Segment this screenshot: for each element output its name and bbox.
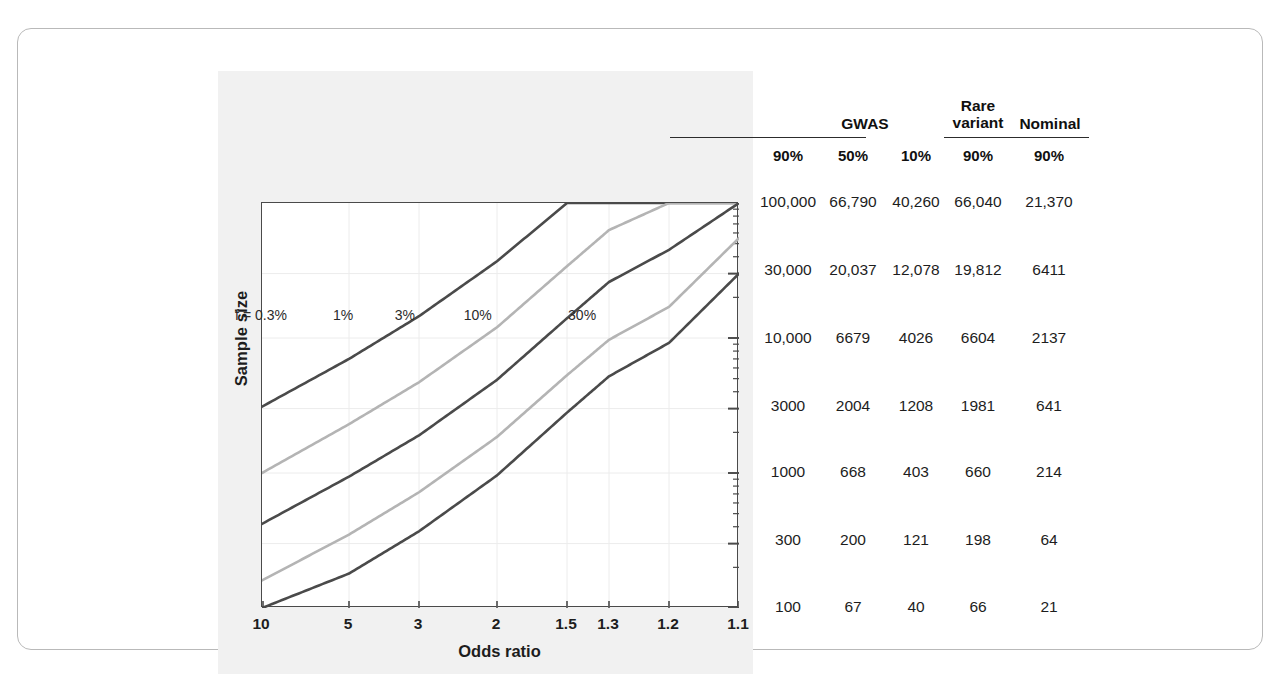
x-tick-label: 1.1 <box>727 615 749 633</box>
table-cell: 2004 <box>836 397 870 415</box>
x-axis-title: Odds ratio <box>261 642 738 661</box>
results-table: GWASRarevariantNominal90%50%10%90%90%100… <box>753 79 1103 639</box>
table-cell: 660 <box>965 463 991 481</box>
table-cell: 100,000 <box>760 193 816 211</box>
curve-label-1: 1% <box>333 307 353 323</box>
curve-label-3: 3% <box>395 307 415 323</box>
table-cell: 19,812 <box>954 261 1001 279</box>
x-tick-label: 3 <box>414 615 423 633</box>
table-cell: 66,790 <box>829 193 876 211</box>
x-tick-label: 5 <box>344 615 353 633</box>
table-cell: 100 <box>775 598 801 616</box>
table-cell: 4026 <box>899 329 933 347</box>
table-cell: 6679 <box>836 329 870 347</box>
x-tick-label: 1.2 <box>657 615 679 633</box>
plot-frame <box>261 202 738 607</box>
table-cell: 200 <box>840 531 866 549</box>
table-column-header: 10% <box>901 147 931 164</box>
table-cell: 3000 <box>771 397 805 415</box>
table-column-header: 90% <box>773 147 803 164</box>
table-cell: 6604 <box>961 329 995 347</box>
curve-10 <box>262 238 739 580</box>
x-tick-label: 2 <box>492 615 501 633</box>
curve-label-10: 10% <box>464 307 492 323</box>
table-cell: 40 <box>907 598 924 616</box>
table-cell: 67 <box>844 598 861 616</box>
table-cell: 300 <box>775 531 801 549</box>
curve-label-30: 30% <box>568 307 596 323</box>
table-cell: 66 <box>969 598 986 616</box>
table-group-header: Rarevariant <box>953 97 1004 131</box>
table-cell: 1000 <box>771 463 805 481</box>
table-group-header-line: Rare <box>953 97 1004 114</box>
table-cell: 198 <box>965 531 991 549</box>
table-group-rule <box>944 137 1012 138</box>
table-cell: 403 <box>903 463 929 481</box>
table-cell: 21,370 <box>1025 193 1072 211</box>
table-cell: 121 <box>903 531 929 549</box>
table-cell: 668 <box>840 463 866 481</box>
table-cell: 12,078 <box>892 261 939 279</box>
table-group-header: Nominal <box>1019 115 1080 132</box>
table-cell: 30,000 <box>764 261 811 279</box>
table-cell: 40,260 <box>892 193 939 211</box>
table-column-header: 90% <box>1034 147 1064 164</box>
curves <box>262 203 739 608</box>
table-cell: 641 <box>1036 397 1062 415</box>
figure-card: Sample size Odds ratio 105321.51.31.21.1… <box>17 28 1263 650</box>
table-cell: 10,000 <box>764 329 811 347</box>
table-cell: 66,040 <box>954 193 1001 211</box>
table-cell: 21 <box>1040 598 1057 616</box>
table-cell: 214 <box>1036 463 1062 481</box>
table-group-header: GWAS <box>841 115 888 132</box>
table-group-rule <box>1011 137 1089 138</box>
table-cell: 6411 <box>1032 261 1065 279</box>
x-axis-ticks <box>263 601 738 608</box>
x-tick-label: 10 <box>252 615 269 633</box>
table-cell: 1208 <box>899 397 933 415</box>
x-tick-label: 1.3 <box>597 615 619 633</box>
curve-3 <box>262 203 739 524</box>
table-column-header: 90% <box>963 147 993 164</box>
table-column-header: 50% <box>838 147 868 164</box>
x-tick-label: 1.5 <box>555 615 577 633</box>
table-cell: 64 <box>1040 531 1057 549</box>
table-group-rule <box>670 137 866 138</box>
table-cell: 2137 <box>1032 329 1066 347</box>
plot-curves-svg <box>262 203 739 608</box>
right-axis-log-ticks <box>728 203 739 608</box>
curve-label-f0.3: f = 0.3% <box>235 307 287 323</box>
table-group-header-line: variant <box>953 114 1004 131</box>
y-axis-title: Sample size <box>232 259 251 419</box>
table-cell: 20,037 <box>829 261 876 279</box>
table-cell: 1981 <box>961 397 995 415</box>
gridlines <box>262 203 739 608</box>
